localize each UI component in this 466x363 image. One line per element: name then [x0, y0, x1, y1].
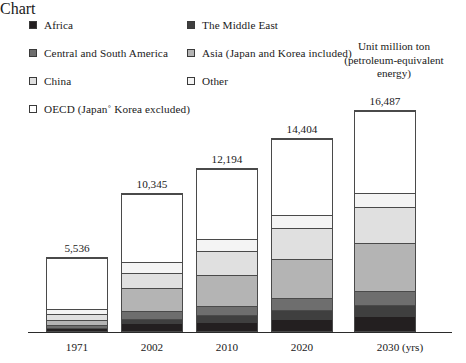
bar-group-2010: 12,1942010 [196, 0, 258, 363]
bar-group-2002: 10,3452002 [121, 0, 183, 363]
bar-segment-2002-central-and-south-america[interactable] [122, 311, 182, 318]
x-tick-label-2002: 2002 [121, 341, 183, 353]
bar-segment-2010-china[interactable] [197, 251, 257, 275]
bar-segment-2020-other[interactable] [272, 215, 332, 228]
bar-segment-2020-asia-japan-and-korea-included[interactable] [272, 259, 332, 299]
bar-group-2030: 16,4872030 (yrs) [354, 0, 416, 363]
bar-segment-2030-central-and-south-america[interactable] [355, 291, 415, 305]
bar-segment-2010-the-middle-east[interactable] [197, 315, 257, 322]
bar-group-1971: 5,5361971 [46, 0, 108, 363]
stacked-bar-chart: Africa Central and South America China O… [0, 0, 466, 363]
bar-segment-2010-other[interactable] [197, 239, 257, 251]
bar-segment-2010-central-and-south-america[interactable] [197, 306, 257, 315]
bar-segment-2002-oecd-japan-korea-excluded[interactable] [122, 194, 182, 262]
bar-group-2020: 14,4042020 [271, 0, 333, 363]
bar-segment-2020-central-and-south-america[interactable] [272, 298, 332, 310]
bar-segment-1971-africa[interactable] [47, 329, 107, 331]
bar-segment-1971-oecd-japan-korea-excluded[interactable] [47, 258, 107, 309]
x-tick-label-1971: 1971 [46, 341, 108, 353]
bar-segment-2002-africa[interactable] [122, 324, 182, 331]
bar-value-label-1971: 5,536 [46, 242, 108, 254]
x-tick-label-2020: 2020 [271, 341, 333, 353]
bar-segment-2010-oecd-japan-korea-excluded[interactable] [197, 169, 257, 239]
bar-segment-2010-africa[interactable] [197, 323, 257, 332]
bar-segment-2030-china[interactable] [355, 207, 415, 243]
bar-2002[interactable] [121, 193, 183, 332]
plot-area: 5,536197110,345200212,194201014,40420201… [0, 0, 466, 363]
bar-segment-2020-china[interactable] [272, 228, 332, 259]
bar-2030[interactable] [354, 110, 416, 332]
bar-2010[interactable] [196, 168, 258, 332]
bar-segment-2002-china[interactable] [122, 273, 182, 288]
bar-2020[interactable] [271, 138, 333, 332]
x-tick-label-2030: 2030 (yrs) [352, 341, 448, 353]
bar-segment-2030-asia-japan-and-korea-included[interactable] [355, 243, 415, 291]
bar-1971[interactable] [46, 257, 108, 332]
bar-segment-2002-other[interactable] [122, 262, 182, 273]
bar-value-label-2020: 14,404 [271, 123, 333, 135]
bar-segment-2030-the-middle-east[interactable] [355, 305, 415, 318]
bar-segment-2030-africa[interactable] [355, 317, 415, 331]
bar-segment-2020-the-middle-east[interactable] [272, 310, 332, 320]
bar-segment-2030-oecd-japan-korea-excluded[interactable] [355, 111, 415, 193]
bar-segment-2020-oecd-japan-korea-excluded[interactable] [272, 139, 332, 215]
bar-value-label-2030: 16,487 [354, 95, 416, 107]
x-tick-label-2010: 2010 [196, 341, 258, 353]
bar-segment-2020-africa[interactable] [272, 320, 332, 331]
bar-value-label-2010: 12,194 [196, 153, 258, 165]
bar-segment-2030-other[interactable] [355, 193, 415, 207]
bar-segment-2010-asia-japan-and-korea-included[interactable] [197, 275, 257, 306]
bar-segment-2002-asia-japan-and-korea-included[interactable] [122, 288, 182, 311]
bar-value-label-2002: 10,345 [121, 178, 183, 190]
